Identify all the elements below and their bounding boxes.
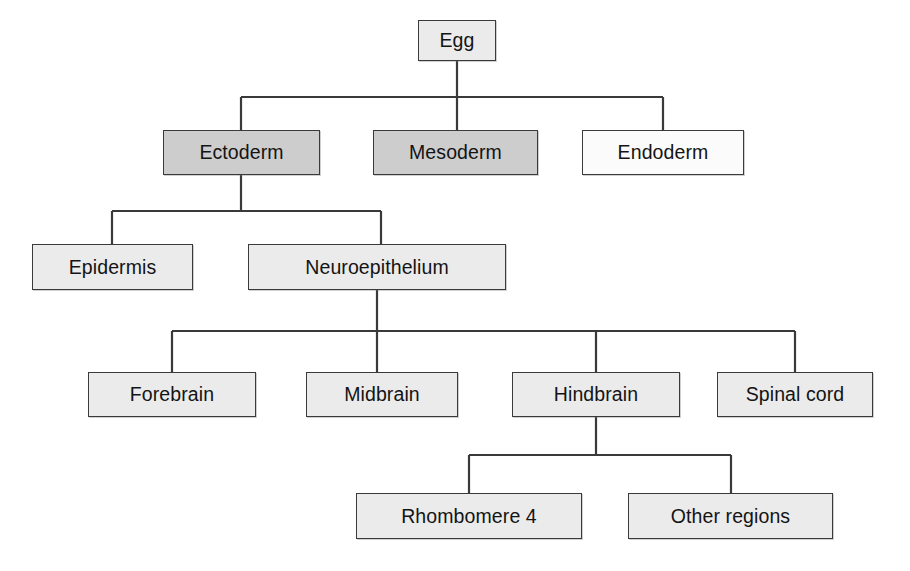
node-hindbrain[interactable]: Hindbrain (512, 372, 680, 417)
node-label-midbrain: Midbrain (344, 383, 420, 406)
node-label-other_regions: Other regions (671, 505, 790, 528)
node-spinal_cord[interactable]: Spinal cord (717, 372, 873, 417)
node-label-ectoderm: Ectoderm (199, 141, 283, 164)
node-label-neuroepithelium: Neuroepithelium (305, 256, 449, 279)
node-label-mesoderm: Mesoderm (409, 141, 502, 164)
node-mesoderm[interactable]: Mesoderm (373, 130, 538, 175)
node-other_regions[interactable]: Other regions (628, 493, 833, 539)
node-egg[interactable]: Egg (418, 20, 496, 61)
node-endoderm[interactable]: Endoderm (582, 130, 744, 175)
flowchart-canvas: EggEctodermMesodermEndodermEpidermisNeur… (0, 0, 910, 571)
node-label-epidermis: Epidermis (69, 256, 157, 279)
node-label-endoderm: Endoderm (618, 141, 709, 164)
node-midbrain[interactable]: Midbrain (306, 372, 458, 417)
node-epidermis[interactable]: Epidermis (32, 244, 193, 290)
node-label-hindbrain: Hindbrain (554, 383, 638, 406)
node-label-forebrain: Forebrain (130, 383, 214, 406)
node-label-egg: Egg (440, 29, 475, 52)
node-neuroepithelium[interactable]: Neuroepithelium (248, 244, 506, 290)
node-label-rhombomere4: Rhombomere 4 (401, 505, 537, 528)
node-label-spinal_cord: Spinal cord (746, 383, 845, 406)
node-forebrain[interactable]: Forebrain (88, 372, 256, 417)
node-ectoderm[interactable]: Ectoderm (163, 130, 320, 175)
node-rhombomere4[interactable]: Rhombomere 4 (356, 493, 582, 539)
